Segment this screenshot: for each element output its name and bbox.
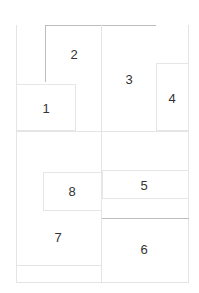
upper-band-line — [16, 131, 188, 132]
region-7-bottom — [16, 265, 102, 266]
outer-left-wall — [16, 25, 17, 283]
region-5-label: 5 — [140, 178, 147, 193]
region-6-label: 6 — [140, 242, 147, 257]
region-4-label: 4 — [168, 91, 175, 106]
region-2-label: 2 — [70, 47, 77, 62]
diagram-canvas: 1 2 3 4 5 6 7 8 — [0, 0, 199, 293]
outer-bottom-wall — [16, 282, 188, 283]
region-3-label: 3 — [125, 72, 132, 87]
region-5-6-divider — [102, 218, 189, 219]
region-2-left-wall — [45, 25, 46, 82]
region-8-label: 8 — [68, 184, 75, 199]
center-divider — [101, 25, 102, 283]
region-1-label: 1 — [42, 101, 49, 116]
region-7-label: 7 — [54, 230, 61, 245]
